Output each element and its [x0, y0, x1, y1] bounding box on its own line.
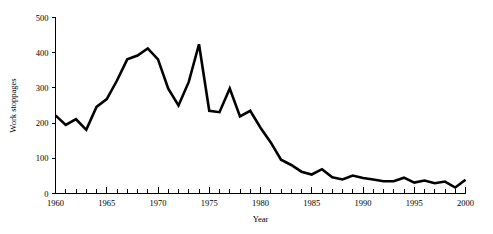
chart-canvas: 0100200300400500 19601965197019751980198…	[0, 0, 493, 234]
x-axis: 196019651970197519801985199019952000	[47, 187, 474, 208]
y-tick-label: 200	[36, 118, 49, 128]
x-tick-label: 1975	[201, 198, 218, 208]
data-line-work-stoppages	[56, 44, 466, 187]
x-tick-label: 1985	[303, 198, 320, 208]
x-tick-label: 1960	[47, 198, 64, 208]
data-series-group	[56, 44, 466, 187]
x-axis-title: Year	[253, 214, 269, 224]
x-tick-label: 1970	[150, 198, 167, 208]
y-tick-label: 100	[36, 153, 49, 163]
x-tick-label: 1980	[252, 198, 269, 208]
x-tick-label: 1995	[406, 198, 423, 208]
y-axis-title: Work stoppages	[8, 78, 18, 132]
work-stoppages-chart: 0100200300400500 19601965197019751980198…	[0, 0, 493, 234]
x-tick-label: 2000	[457, 198, 474, 208]
x-tick-label: 1990	[355, 198, 372, 208]
y-tick-label: 300	[36, 83, 49, 93]
x-tick-label: 1965	[98, 198, 115, 208]
y-axis: 0100200300400500	[36, 13, 56, 199]
y-tick-label: 400	[36, 48, 49, 58]
y-tick-label: 500	[36, 13, 49, 23]
